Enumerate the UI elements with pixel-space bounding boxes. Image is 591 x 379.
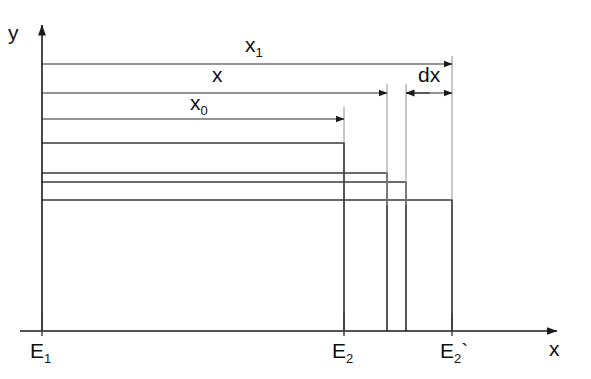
axis-tick-label-E1-subscript: 1 — [44, 351, 51, 366]
dimension-label-x1: x1 — [245, 33, 263, 60]
rect-x0 — [42, 143, 344, 331]
labels-group: yxx1xx0dxE1E2E2` — [8, 21, 560, 366]
rect-x — [42, 173, 387, 331]
axis-tick-label-E2-prime: E2` — [440, 339, 468, 366]
dimension-arrows-group — [42, 64, 452, 119]
dimension-label-x1-base: x — [245, 33, 256, 56]
dimension-label-x0-subscript: 0 — [201, 103, 208, 118]
dimension-label-x: x — [212, 63, 223, 86]
y-axis-label-base: y — [8, 21, 19, 44]
dimension-label-x1-subscript: 1 — [256, 45, 263, 60]
axis-tick-label-E2-prime-prime: ` — [461, 339, 468, 362]
dimension-label-dx: dx — [418, 63, 441, 86]
rect-dx — [42, 182, 406, 331]
dimension-label-x-base: x — [212, 63, 223, 86]
axis-ticks-group — [42, 313, 452, 336]
dimension-label-x0-base: x — [190, 91, 201, 114]
axis-tick-label-E2-subscript: 2 — [346, 351, 353, 366]
axis-tick-label-E2-prime-base: E — [440, 339, 454, 362]
schematic-svg: yxx1xx0dxE1E2E2` — [0, 0, 591, 379]
x-axis-label: x — [549, 337, 560, 360]
axes-group — [20, 25, 557, 331]
rectangles-group — [42, 143, 452, 331]
x-axis-label-base: x — [549, 337, 560, 360]
axis-tick-label-E2-base: E — [332, 339, 346, 362]
rect-x1 — [42, 200, 452, 331]
axis-tick-label-E2-prime-subscript: 2 — [454, 351, 461, 366]
y-axis-label: y — [8, 21, 19, 44]
diagram-canvas: yxx1xx0dxE1E2E2` — [0, 0, 591, 379]
axis-tick-label-E1: E1 — [30, 339, 51, 366]
dimension-label-x0: x0 — [190, 91, 208, 118]
axis-tick-label-E1-base: E — [30, 339, 44, 362]
axis-tick-label-E2: E2 — [332, 339, 353, 366]
dimension-label-dx-base: dx — [418, 63, 441, 86]
